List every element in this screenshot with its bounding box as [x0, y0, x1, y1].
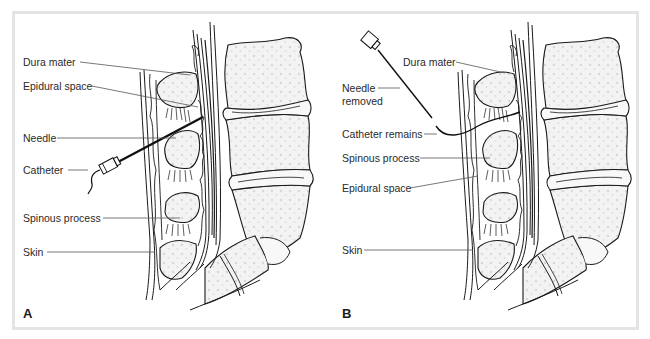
label-a-dura-mater: Dura mater [23, 56, 76, 68]
panel-a-drawing [47, 22, 313, 310]
label-b-epidural-space: Epidural space [342, 182, 411, 194]
needle-hub-icon [99, 156, 121, 174]
label-a-skin: Skin [23, 246, 43, 258]
label-b-dura-mater: Dura mater [403, 56, 456, 68]
label-a-epidural-space: Epidural space [23, 80, 92, 92]
panel-b-drawing [361, 22, 631, 310]
label-b-catheter-remains: Catheter remains [342, 128, 423, 140]
epidural-catheter-illustration [0, 0, 650, 339]
label-b-skin: Skin [342, 244, 362, 256]
removed-needle-hub-icon [361, 31, 382, 51]
label-a-spinous-process: Spinous process [23, 212, 101, 224]
panel-letter-b: B [342, 306, 351, 321]
label-a-needle: Needle [23, 132, 56, 144]
panel-letter-a: A [23, 306, 32, 321]
label-b-spinous-process: Spinous process [342, 152, 420, 164]
label-a-catheter: Catheter [23, 164, 63, 176]
label-b-needle-removed-line2: removed [342, 95, 383, 107]
label-b-needle-removed-line1: Needle [342, 82, 375, 94]
